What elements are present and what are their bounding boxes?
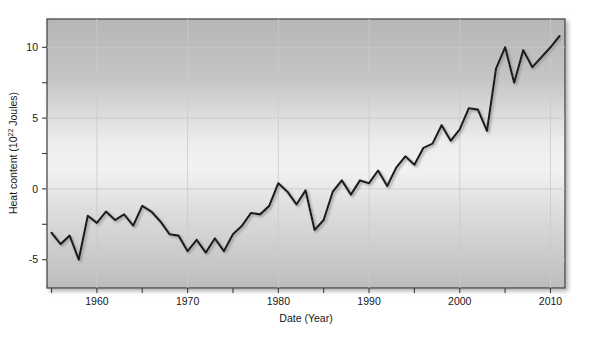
- y-axis-tick-labels: 1050-5: [26, 41, 38, 265]
- x-tick-label: 2000: [448, 295, 472, 307]
- x-tick-label: 1980: [267, 295, 291, 307]
- x-tick-label: 1970: [176, 295, 200, 307]
- plot-area: [47, 19, 565, 288]
- y-axis-title-main: Heat content (10: [7, 136, 19, 214]
- y-axis-title: Heat content (1022 Joules): [7, 92, 19, 214]
- y-tick-label: 5: [32, 112, 38, 124]
- x-axis-title: Date (Year): [279, 312, 332, 324]
- y-axis-title-tail: Joules): [7, 92, 19, 129]
- figure-container: 196019701980199020002010 1050-5 Date (Ye…: [0, 0, 589, 340]
- x-tick-label: 1990: [357, 295, 381, 307]
- x-tick-label: 1960: [85, 295, 109, 307]
- heat-content-line-chart: 196019701980199020002010 1050-5 Date (Ye…: [0, 0, 589, 340]
- x-axis-ticks: [52, 288, 551, 293]
- y-tick-label: -5: [29, 253, 38, 265]
- x-axis-tick-labels: 196019701980199020002010: [85, 295, 562, 307]
- y-tick-label: 10: [26, 41, 38, 53]
- y-axis-title-exponent: 22: [7, 129, 14, 137]
- y-axis-ticks: [42, 47, 47, 259]
- x-tick-label: 2010: [539, 295, 563, 307]
- y-tick-label: 0: [32, 183, 38, 195]
